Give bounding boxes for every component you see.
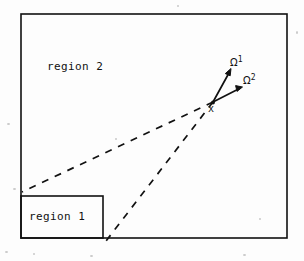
omega-2-superscript: 2: [251, 73, 256, 82]
scan-speck: [243, 254, 246, 256]
sight-line-upper: [22, 102, 213, 192]
scan-speck: [259, 218, 261, 220]
omega-1-symbol: Ω: [230, 57, 238, 68]
scan-speck: [296, 31, 298, 34]
omega-1-superscript: 1: [238, 55, 243, 64]
scan-speck: [13, 188, 16, 190]
scan-speck: [33, 253, 35, 255]
scan-speck: [177, 5, 179, 7]
sight-line-lower: [106, 102, 213, 241]
scan-speck: [90, 255, 93, 257]
outer-boundary-rect: [21, 14, 287, 238]
point-x-label: x: [208, 104, 214, 114]
scan-speck: [7, 123, 10, 125]
region-1-label: region 1: [29, 211, 85, 222]
omega-1-label: Ω1: [230, 58, 242, 68]
figure-canvas: region 2 region 1 x Ω1 Ω2: [0, 0, 304, 261]
omega-2-symbol: Ω: [243, 75, 251, 86]
region-2-label: region 2: [47, 61, 103, 72]
scan-speck: [5, 251, 8, 253]
scan-speck: [115, 138, 117, 140]
omega-2-label: Ω2: [243, 76, 255, 86]
